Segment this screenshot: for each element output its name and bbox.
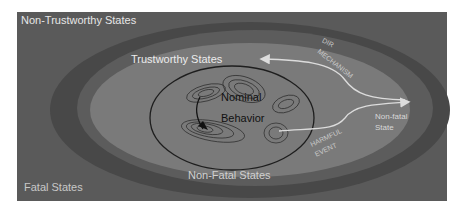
behavior-label: Behavior — [221, 113, 264, 124]
non-trustworthy-states-label: Non-Trustworthy States — [21, 15, 136, 26]
non-fatal-states-label: Non-Fatal States — [188, 170, 271, 181]
state-label: State — [375, 124, 394, 132]
trustworthy-states-label: Trustworthy States — [131, 54, 222, 65]
fatal-states-label: Fatal States — [24, 182, 83, 193]
non-fatal-state-label: Non-fatal — [375, 113, 407, 121]
state-space-diagram: Non-Trustworthy States Trustworthy State… — [0, 0, 464, 213]
nominal-label: Nominal — [221, 92, 261, 103]
